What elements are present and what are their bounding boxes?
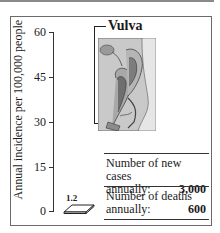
tick-0 — [49, 211, 53, 212]
stats-divider-top — [104, 153, 209, 154]
chart-title: Vulva — [108, 18, 143, 34]
tick-label-45: 45 — [28, 71, 46, 83]
y-axis — [53, 32, 54, 212]
bar-3d-shape — [62, 200, 98, 214]
tick-label-0: 0 — [28, 205, 46, 217]
stat-deaths-label-2: annually: — [106, 203, 151, 216]
top-rule — [0, 0, 214, 2]
tick-60 — [49, 32, 53, 33]
anatomy-illustration — [98, 38, 156, 131]
tick-30 — [49, 122, 53, 123]
tick-15 — [49, 167, 53, 168]
leader-line-top — [94, 26, 106, 27]
stat-new-cases-label: Number of new cases — [106, 157, 206, 183]
tick-label-60: 60 — [28, 26, 46, 38]
tick-label-30: 30 — [28, 116, 46, 128]
stats-divider-bottom — [104, 219, 209, 220]
tick-label-15: 15 — [28, 161, 46, 173]
stat-deaths: Number of deaths annually: 600 — [106, 190, 206, 216]
stat-deaths-value: 600 — [188, 203, 206, 216]
stats-divider-middle — [104, 186, 209, 187]
tick-45 — [49, 77, 53, 78]
y-axis-label: Annual incidence per 100,000 people — [11, 40, 26, 200]
leader-line-vertical — [94, 26, 95, 123]
